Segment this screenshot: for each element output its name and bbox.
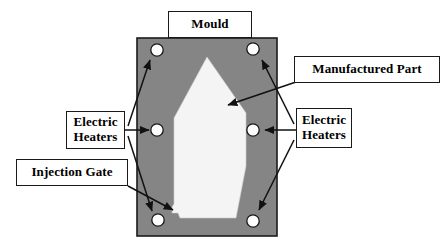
label-injection-gate-text: Injection Gate — [31, 165, 112, 180]
heater-bottom-right — [247, 215, 259, 227]
label-electric-heaters-right-text: Electric Heaters — [302, 113, 346, 142]
heater-top-left — [151, 44, 163, 56]
heater-mid-left — [151, 124, 163, 136]
label-box-manufactured-part[interactable]: Manufactured Part — [294, 56, 440, 83]
label-mould-text: Mould — [191, 17, 228, 32]
heater-bottom-left — [152, 214, 164, 226]
label-box-electric-heaters-left[interactable]: Electric Heaters — [66, 111, 125, 149]
label-manufactured-part-text: Manufactured Part — [312, 62, 421, 77]
heater-mid-right — [247, 124, 259, 136]
label-box-injection-gate[interactable]: Injection Gate — [16, 159, 128, 186]
heater-top-right — [247, 43, 259, 55]
label-electric-heaters-left-text: Electric Heaters — [73, 115, 117, 144]
diagram-canvas: Mould Manufactured Part Electric Heaters… — [0, 0, 444, 248]
label-box-electric-heaters-right[interactable]: Electric Heaters — [296, 108, 352, 148]
label-box-mould[interactable]: Mould — [168, 11, 252, 38]
